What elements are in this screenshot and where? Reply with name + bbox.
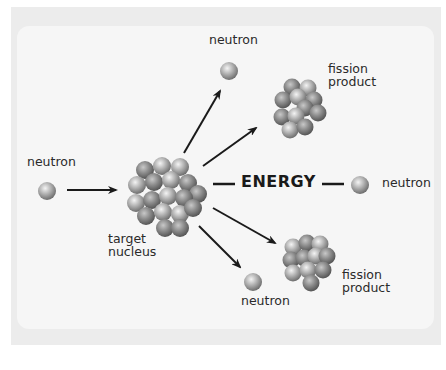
incoming-neutron <box>38 182 56 200</box>
arrow-to-fission-product-top <box>203 128 256 166</box>
neutron-bottom <box>244 273 262 291</box>
fission-product-bottom-icon <box>283 235 336 292</box>
fission-product-top-icon <box>274 79 327 139</box>
label-neutron-right: neutron <box>382 176 431 190</box>
label-incoming-neutron: neutron <box>27 155 76 169</box>
arrow-to-fission-product-bottom <box>213 208 275 243</box>
target-nucleus-icon <box>127 157 207 237</box>
label-energy: ENERGY <box>241 172 316 191</box>
label-target-nucleus-line2: nucleus <box>108 245 156 259</box>
arrow-to-neutron-bottom <box>199 226 240 267</box>
label-neutron-top: neutron <box>209 33 258 47</box>
label-fission-product-bottom-line2: product <box>342 281 390 295</box>
label-fission-product-top-line2: product <box>328 75 376 89</box>
neutron-right <box>351 176 369 194</box>
label-neutron-bottom: neutron <box>241 294 290 308</box>
arrow-to-neutron-top <box>184 91 220 153</box>
neutron-top <box>220 62 238 80</box>
fission-diagram <box>0 0 446 370</box>
